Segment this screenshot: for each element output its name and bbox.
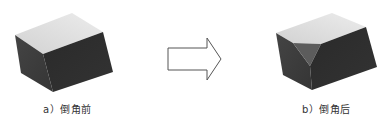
caption-after-chamfer: b）倒角后 <box>302 101 351 116</box>
caption-before-chamfer: a）倒角前 <box>43 101 92 116</box>
box-before-chamfer <box>15 13 113 92</box>
box-after-chamfer <box>276 13 377 90</box>
right-arrow-icon <box>168 38 221 80</box>
